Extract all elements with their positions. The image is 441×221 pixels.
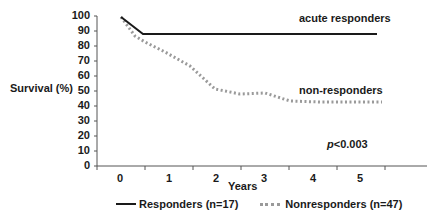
y-tick-70: 70: [68, 54, 90, 66]
y-tick-20: 20: [68, 129, 90, 141]
legend: Responders (n=17) Nonresponders (n=47): [116, 198, 424, 210]
y-tick-60: 60: [68, 69, 90, 81]
x-tick-2: 2: [208, 172, 224, 184]
x-tick-5: 5: [352, 172, 368, 184]
x-tick-4: 4: [305, 172, 321, 184]
y-tick-40: 40: [68, 99, 90, 111]
legend-label-responders: Responders (n=17): [139, 198, 238, 210]
plot-area: [0, 0, 441, 221]
x-tick-0: 0: [112, 172, 128, 184]
p-value-symbol: p: [327, 138, 334, 150]
x-tick-1: 1: [161, 172, 177, 184]
y-tick-10: 10: [68, 144, 90, 156]
y-tick-80: 80: [68, 39, 90, 51]
y-tick-30: 30: [68, 114, 90, 126]
y-axis-label: Survival (%): [10, 82, 73, 94]
survival-chart: Survival (%) 100 90 80 70 60 50 40 30 20…: [0, 0, 441, 221]
p-value-annotation: p<0.003: [327, 138, 368, 150]
solid-line-swatch-icon: [116, 203, 136, 205]
legend-label-nonresponders: Nonresponders (n=47): [285, 198, 402, 210]
y-tick-90: 90: [68, 24, 90, 36]
p-value-text: <0.003: [334, 138, 368, 150]
x-tick-3: 3: [256, 172, 272, 184]
y-tick-0: 0: [68, 159, 90, 171]
annotation-non-responders: non-responders: [299, 84, 383, 96]
y-tick-100: 100: [68, 9, 90, 21]
legend-item-nonresponders: Nonresponders (n=47): [260, 198, 402, 210]
dotted-line-swatch-icon: [260, 203, 280, 206]
x-ticks: [97, 166, 385, 170]
y-tick-50: 50: [68, 84, 90, 96]
annotation-acute-responders: acute responders: [299, 12, 391, 24]
x-axis-label: Years: [228, 180, 257, 192]
legend-item-responders: Responders (n=17): [116, 198, 238, 210]
